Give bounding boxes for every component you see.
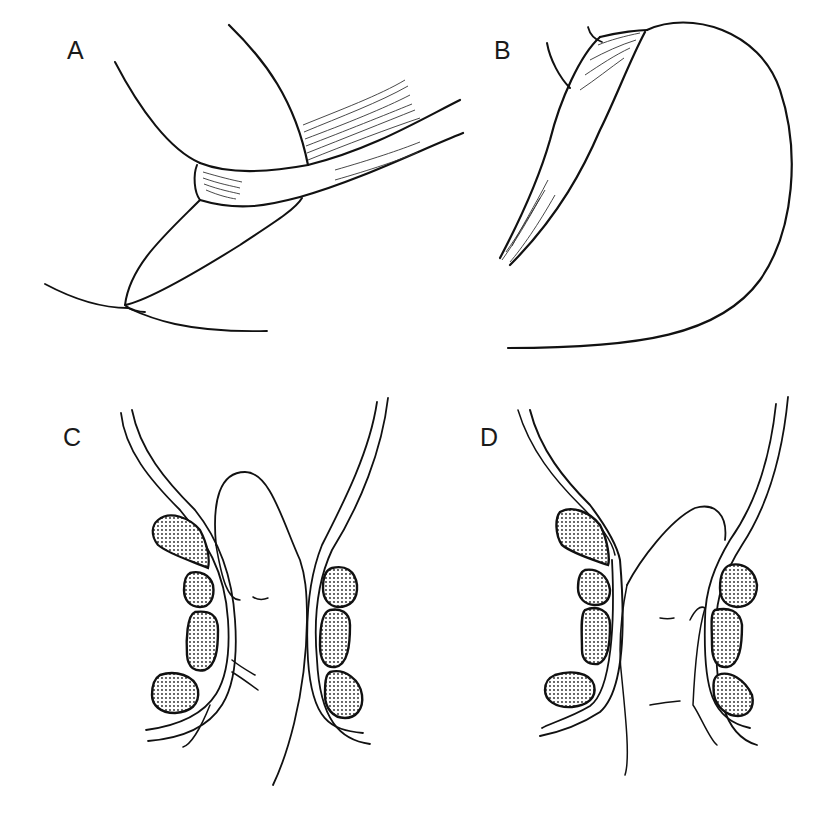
node-d-left-1 <box>556 509 608 565</box>
node-c-right-1 <box>323 567 357 607</box>
panel-a-drawing <box>45 25 463 331</box>
node-c-left-2 <box>184 572 213 607</box>
illustration-canvas <box>0 0 827 820</box>
panel-c-drawing <box>121 398 388 785</box>
node-c-left-3 <box>187 612 218 671</box>
panel-d-drawing <box>518 397 788 775</box>
figure: A B C D <box>0 0 827 820</box>
node-d-right-2 <box>712 609 742 667</box>
node-c-right-2 <box>320 610 350 668</box>
node-c-right-3 <box>325 671 362 718</box>
node-d-left-4 <box>545 672 595 707</box>
panel-b-drawing <box>500 23 792 349</box>
node-d-left-3 <box>582 608 610 664</box>
node-c-left-4 <box>152 673 198 713</box>
node-c-left-1 <box>153 515 209 568</box>
node-d-left-2 <box>578 570 610 605</box>
node-d-right-1 <box>720 564 757 607</box>
